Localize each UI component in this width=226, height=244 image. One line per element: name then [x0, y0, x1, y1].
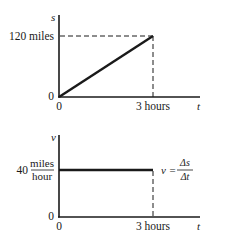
kinematics-figure: s 120 miles 0 0 3 hours t v 40 miles hou…	[0, 0, 226, 244]
t-axis-label: t	[197, 100, 201, 112]
position-time-chart: s 120 miles 0 0 3 hours t	[9, 11, 201, 112]
v-tick-40: 40	[17, 164, 29, 176]
s-tick-120: 120 miles	[9, 30, 55, 42]
t-tick-0: 0	[56, 100, 62, 112]
t-tick-3h: 3 hours	[136, 100, 171, 112]
v-tick-0: 0	[48, 210, 54, 222]
formula-denominator: Δt	[180, 171, 190, 182]
s-axis-label: s	[51, 11, 55, 23]
t-tick-0: 0	[56, 220, 62, 232]
v-axis-label: v	[51, 131, 56, 143]
position-line	[59, 36, 153, 97]
t-axis-label: t	[197, 220, 201, 232]
velocity-formula: v = Δs Δt	[161, 157, 193, 182]
formula-numerator: Δs	[179, 157, 190, 168]
t-tick-3h: 3 hours	[136, 220, 171, 232]
formula-lhs: v =	[161, 164, 176, 176]
v-tick-unit-num: miles	[30, 157, 54, 169]
velocity-time-chart: v 40 miles hour 0 0 3 hours t v = Δs Δt	[17, 131, 202, 232]
v-tick-unit-den: hour	[32, 170, 53, 182]
s-tick-0: 0	[48, 90, 54, 102]
